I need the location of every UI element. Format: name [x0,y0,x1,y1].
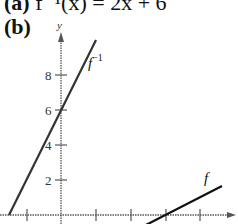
x-axis-arrow-icon [227,212,236,218]
f-line [140,186,222,224]
y-tick-6: 6 [45,103,52,118]
y-axis-arrow-icon [58,32,64,42]
f-label: f [204,170,210,186]
y-axis-label: y [56,19,62,31]
y-tick-8: 8 [45,68,52,83]
f-inverse-label: f−1 [88,52,103,71]
f-inverse-line [9,40,96,215]
graph: y 2 4 6 8 f−1 f [0,0,238,224]
y-tick-2: 2 [45,173,52,188]
